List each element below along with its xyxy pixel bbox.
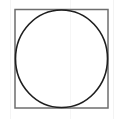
figure-svg (0, 0, 121, 119)
inscribed-circle-outline (16, 10, 108, 108)
geometry-figure-canvas: Circle inscribed in a square (0, 0, 121, 119)
